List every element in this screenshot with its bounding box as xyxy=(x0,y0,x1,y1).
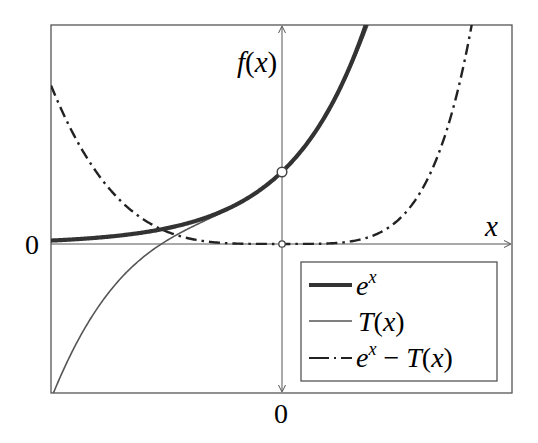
y-axis-label: f(x) xyxy=(237,46,277,79)
legend-label-tx: T(x) xyxy=(358,306,405,337)
marker-ex-at-zero xyxy=(277,167,287,177)
y-zero-tick-label: 0 xyxy=(25,229,39,260)
chart: f(x) x 0 0 ex T(x) ex − T(x) xyxy=(0,0,538,443)
marker-origin xyxy=(279,241,285,247)
x-zero-tick-label: 0 xyxy=(274,398,288,429)
legend: ex T(x) ex − T(x) xyxy=(301,262,497,381)
x-axis-label: x xyxy=(484,210,498,242)
